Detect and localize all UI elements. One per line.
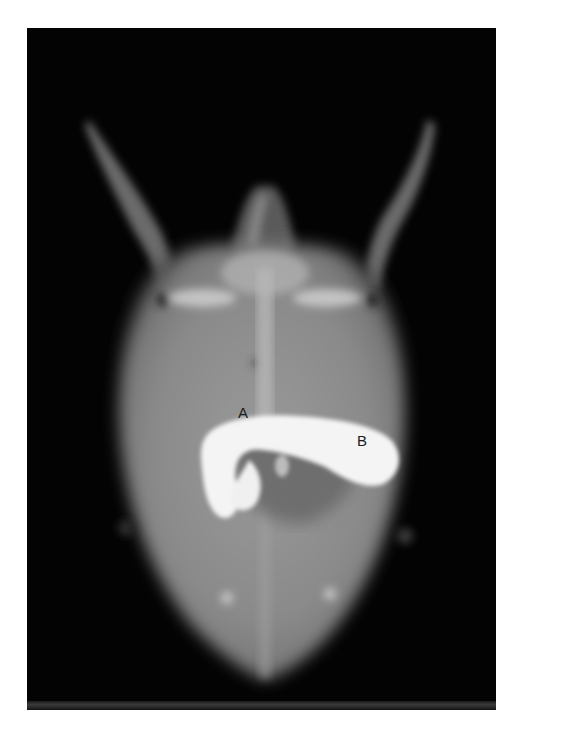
figure-caption-cutoff: [10, 734, 562, 741]
label-b: B: [357, 432, 367, 449]
film-edge-band: [27, 701, 496, 710]
turtle-xray-image: [27, 28, 496, 710]
label-a: A: [238, 404, 248, 421]
radiograph-figure: A B: [27, 28, 496, 710]
